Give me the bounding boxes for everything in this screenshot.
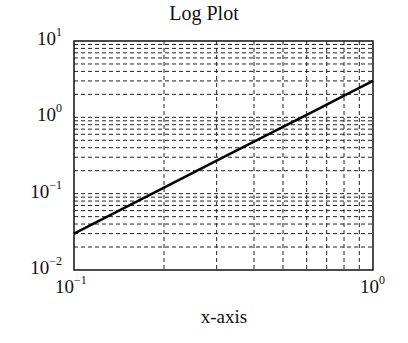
axes-frame — [74, 41, 373, 270]
plot-area — [0, 0, 408, 343]
x-axis-label: x-axis — [74, 306, 374, 328]
